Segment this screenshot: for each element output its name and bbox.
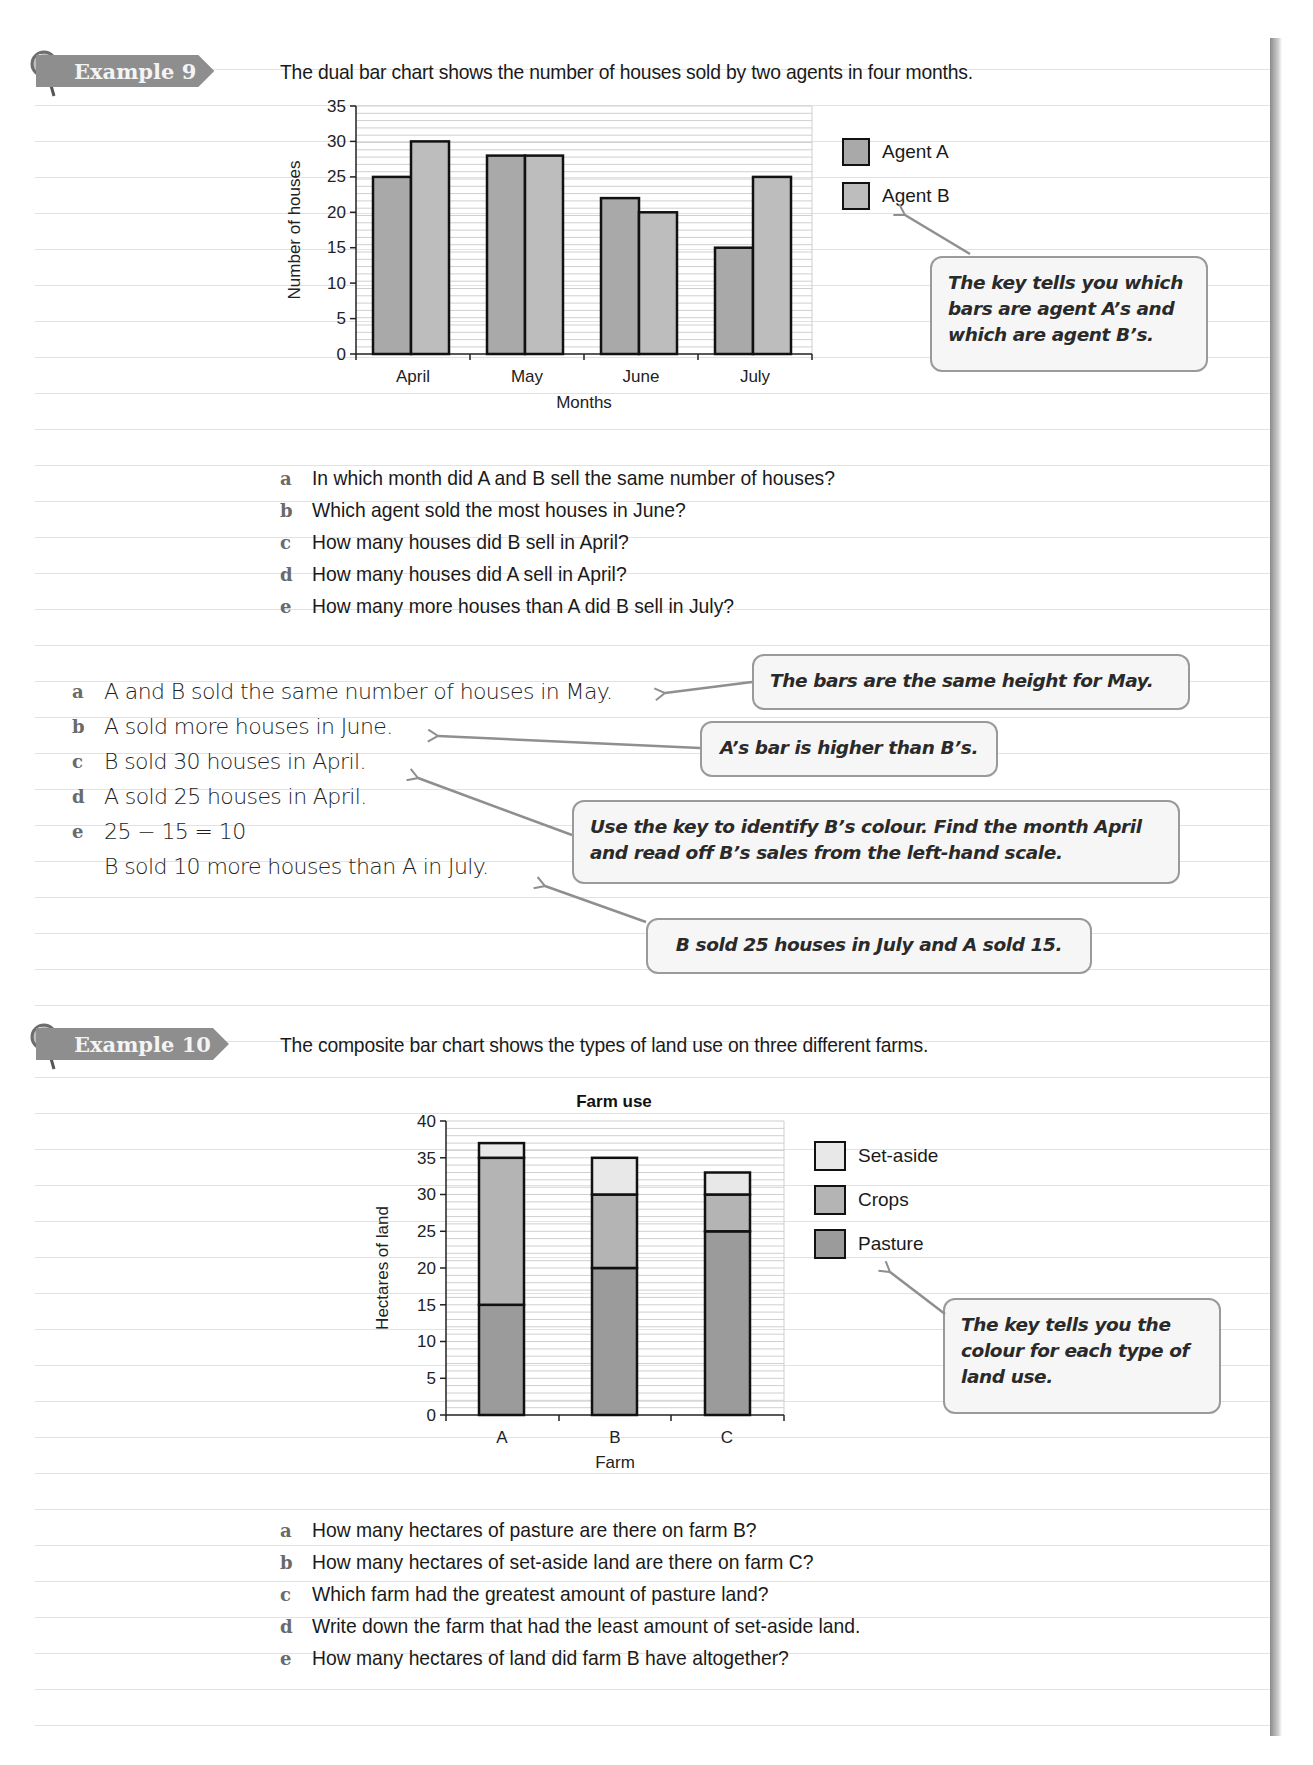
svg-text:0: 0 xyxy=(337,345,346,364)
legend-item-agent-b: Agent B xyxy=(842,174,950,218)
svg-text:July: July xyxy=(740,367,771,386)
svg-text:10: 10 xyxy=(417,1332,436,1351)
svg-text:C: C xyxy=(721,1428,733,1447)
svg-text:April: April xyxy=(396,367,430,386)
answer-e-conclusion: B sold 10 more houses than A in July. xyxy=(72,849,612,884)
dual-bar-chart: 051015 20253035 Number of houses AprilMa… xyxy=(280,92,820,422)
bar-farm-c-pasture xyxy=(705,1231,750,1415)
svg-text:25: 25 xyxy=(417,1222,436,1241)
question-a: aHow many hectares of pasture are there … xyxy=(280,1514,908,1546)
legend-item-agent-a: Agent A xyxy=(842,130,950,174)
question-d: dWrite down the farm that had the least … xyxy=(280,1610,908,1642)
answer-c: cB sold 30 houses in April. xyxy=(72,744,612,779)
bar-farm-b-set-aside xyxy=(592,1158,637,1195)
question-b: bWhich agent sold the most houses in Jun… xyxy=(280,494,881,526)
question-d: dHow many houses did A sell in April? xyxy=(280,558,881,590)
bar-april-agent-b xyxy=(411,141,449,354)
svg-text:15: 15 xyxy=(417,1296,436,1315)
svg-text:5: 5 xyxy=(337,309,346,328)
example-10-intro: The composite bar chart shows the types … xyxy=(280,1033,928,1057)
svg-text:5: 5 xyxy=(427,1369,436,1388)
bar-farm-b-pasture xyxy=(592,1268,637,1415)
agent-a-swatch xyxy=(842,138,870,166)
legend-item-pasture: Pasture xyxy=(814,1222,938,1266)
stacked-bars xyxy=(479,1143,750,1415)
bar-may-agent-b xyxy=(525,156,563,354)
legend-example-9: Agent A Agent B xyxy=(842,130,950,218)
example-10-questions: aHow many hectares of pasture are there … xyxy=(280,1514,908,1674)
bar-farm-b-crops xyxy=(592,1195,637,1269)
pasture-swatch xyxy=(814,1229,846,1259)
svg-text:25: 25 xyxy=(327,167,346,186)
svg-text:0: 0 xyxy=(427,1406,436,1425)
svg-text:15: 15 xyxy=(327,238,346,257)
legend-item-set-aside: Set-aside xyxy=(814,1134,938,1178)
x-axis-label: Farm xyxy=(595,1453,635,1472)
callout-july-values: B sold 25 houses in July and A sold 15. xyxy=(646,918,1092,974)
page-edge-shadow xyxy=(1270,38,1282,1736)
question-a: aIn which month did A and B sell the sam… xyxy=(280,462,881,494)
svg-text:June: June xyxy=(623,367,660,386)
question-c: cHow many houses did B sell in April? xyxy=(280,526,881,558)
legend-example-10: Set-aside Crops Pasture xyxy=(814,1134,938,1266)
y-axis-label: Hectares of land xyxy=(373,1206,392,1330)
example-9-answers: aA and B sold the same number of houses … xyxy=(72,674,612,884)
composite-bar-chart: Farm use 051015 2025303540 Hectares of l… xyxy=(360,1085,800,1485)
y-axis xyxy=(350,106,356,354)
svg-text:35: 35 xyxy=(417,1149,436,1168)
callout-a-bar-higher: A’s bar is higher than B’s. xyxy=(700,721,998,777)
key-callout-example-10: The key tells you the colour for each ty… xyxy=(943,1298,1221,1414)
bars xyxy=(373,141,791,354)
svg-text:10: 10 xyxy=(327,274,346,293)
svg-text:20: 20 xyxy=(417,1259,436,1278)
question-e: eHow many more houses than A did B sell … xyxy=(280,590,881,622)
x-tick-labels: AprilMayJuneJuly xyxy=(396,367,771,386)
example-9-label: Example 9 xyxy=(36,55,214,87)
callout-same-height-may: The bars are the same height for May. xyxy=(752,654,1190,710)
example-10-label: Example 10 xyxy=(36,1028,229,1060)
bar-june-agent-b xyxy=(639,212,677,354)
svg-text:30: 30 xyxy=(417,1185,436,1204)
bar-farm-a-pasture xyxy=(479,1305,524,1415)
set-aside-swatch xyxy=(814,1141,846,1171)
answer-b: bA sold more houses in June. xyxy=(72,709,612,744)
question-e: eHow many hectares of land did farm B ha… xyxy=(280,1642,908,1674)
bar-farm-c-crops xyxy=(705,1195,750,1232)
example-9-intro: The dual bar chart shows the number of h… xyxy=(280,60,973,84)
answer-a: aA and B sold the same number of houses … xyxy=(72,674,612,709)
bar-farm-a-crops xyxy=(479,1158,524,1305)
answer-d: dA sold 25 houses in April. xyxy=(72,779,612,814)
svg-text:35: 35 xyxy=(327,97,346,116)
bar-may-agent-a xyxy=(487,156,525,354)
svg-text:B: B xyxy=(609,1428,620,1447)
chart-title: Farm use xyxy=(576,1092,652,1111)
example-9-badge: Example 9 xyxy=(36,54,214,88)
legend-item-crops: Crops xyxy=(814,1178,938,1222)
svg-text:40: 40 xyxy=(417,1112,436,1131)
bar-june-agent-a xyxy=(601,198,639,354)
y-tick-labels: 051015 2025303540 xyxy=(417,1112,436,1425)
crops-swatch xyxy=(814,1185,846,1215)
svg-text:A: A xyxy=(496,1428,508,1447)
x-axis-label: Months xyxy=(556,393,612,412)
bar-july-agent-b xyxy=(753,177,791,354)
x-tick-labels: ABC xyxy=(496,1428,733,1447)
svg-text:20: 20 xyxy=(327,203,346,222)
y-axis xyxy=(440,1121,446,1415)
answer-e: e25 − 15 = 10 xyxy=(72,814,612,849)
y-tick-labels: 051015 20253035 xyxy=(327,97,346,364)
y-axis-label: Number of houses xyxy=(285,161,304,300)
svg-text:May: May xyxy=(511,367,544,386)
question-c: cWhich farm had the greatest amount of p… xyxy=(280,1578,908,1610)
bar-farm-a-set-aside xyxy=(479,1143,524,1158)
example-9-questions: aIn which month did A and B sell the sam… xyxy=(280,462,881,622)
agent-b-swatch xyxy=(842,182,870,210)
svg-text:30: 30 xyxy=(327,132,346,151)
bar-april-agent-a xyxy=(373,177,411,354)
example-10-badge: Example 10 xyxy=(36,1027,229,1061)
bar-july-agent-a xyxy=(715,248,753,354)
key-callout-example-9: The key tells you which bars are agent A… xyxy=(930,256,1208,372)
question-b: bHow many hectares of set-aside land are… xyxy=(280,1546,908,1578)
bar-farm-c-set-aside xyxy=(705,1173,750,1195)
callout-use-key-april: Use the key to identify B’s colour. Find… xyxy=(572,800,1180,884)
